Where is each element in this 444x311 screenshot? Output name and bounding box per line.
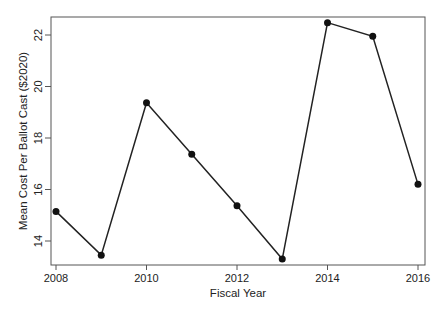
x-tick-label: 2010 xyxy=(134,272,158,284)
series-line xyxy=(56,23,418,259)
y-tick-label: 18 xyxy=(32,132,44,144)
y-axis: 1416182022 xyxy=(32,29,51,247)
data-point xyxy=(53,208,60,215)
x-axis: 20082010201220142016 xyxy=(44,265,430,284)
y-tick-label: 20 xyxy=(32,80,44,92)
data-point xyxy=(188,151,195,158)
data-point xyxy=(143,99,150,106)
line-chart: 1416182022 20082010201220142016 Fiscal Y… xyxy=(0,0,444,311)
y-tick-label: 14 xyxy=(32,235,44,247)
x-axis-title: Fiscal Year xyxy=(210,287,266,299)
data-point xyxy=(234,202,241,209)
data-point xyxy=(98,252,105,259)
data-point xyxy=(324,19,331,26)
series-points xyxy=(53,19,422,262)
x-tick-label: 2016 xyxy=(406,272,430,284)
y-tick-label: 22 xyxy=(32,29,44,41)
x-tick-label: 2008 xyxy=(44,272,68,284)
data-point xyxy=(415,181,422,188)
plot-frame xyxy=(51,17,425,265)
data-point xyxy=(279,256,286,263)
data-point xyxy=(369,33,376,40)
x-tick-label: 2012 xyxy=(225,272,249,284)
y-axis-title: Mean Cost Per Ballot Cast ($2020) xyxy=(17,52,29,231)
x-tick-label: 2014 xyxy=(315,272,339,284)
y-tick-label: 16 xyxy=(32,183,44,195)
